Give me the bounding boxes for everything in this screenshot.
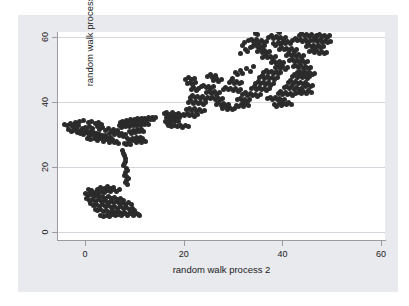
scatter-point (240, 71, 245, 76)
y-axis-title-wrap: random walk process 1 (26, 32, 38, 240)
scatter-point (202, 108, 207, 113)
scatter-point (116, 141, 121, 146)
scatter-point (86, 187, 91, 192)
scatter-point (186, 124, 191, 129)
y-tick-40 (52, 102, 57, 103)
scatter-point (324, 50, 329, 55)
x-tick-label-40: 40 (277, 249, 287, 259)
y-tick-label-20: 20 (40, 160, 50, 174)
scatter-point (273, 54, 278, 59)
scatter-point (285, 65, 290, 70)
scatter-point (238, 51, 243, 56)
scatter-point (248, 45, 253, 50)
scatter-point (219, 77, 224, 82)
scatter-point (248, 69, 253, 74)
gridline-y-20 (57, 167, 385, 168)
scatter-point (277, 32, 282, 35)
scatter-point (310, 83, 315, 88)
gridline-y-0 (57, 232, 385, 233)
scatter-plot-figure: 02040600204060 random walk process 2 ran… (0, 0, 409, 306)
scatter-point (308, 65, 313, 70)
plot-region (57, 32, 385, 240)
x-axis-title: random walk process 2 (57, 264, 386, 275)
y-axis-title: random walk process 1 (84, 0, 95, 142)
scatter-point (192, 76, 197, 81)
scatter-point (245, 49, 250, 54)
x-tick-label-0: 0 (83, 249, 88, 259)
x-tick-40 (282, 241, 283, 246)
scatter-point (143, 139, 148, 144)
scatter-point (289, 102, 294, 107)
y-tick-60 (52, 37, 57, 38)
scatter-point (125, 182, 130, 187)
scatter-point (153, 115, 158, 120)
y-tick-label-60: 60 (40, 30, 50, 44)
scatter-point (141, 129, 146, 134)
y-tick-label-40: 40 (40, 95, 50, 109)
scatter-point (213, 73, 218, 78)
scatter-point (294, 47, 299, 52)
x-tick-label-60: 60 (376, 249, 386, 259)
scatter-point (251, 64, 256, 69)
plot-area (57, 32, 385, 240)
scatter-point (258, 92, 263, 97)
x-tick-0 (85, 241, 86, 246)
scatter-point (246, 103, 251, 108)
y-tick-20 (52, 167, 57, 168)
x-axis-line (57, 240, 386, 241)
x-tick-20 (184, 241, 185, 246)
scatter-point (267, 49, 272, 54)
scatter-point (111, 185, 116, 190)
scatter-point (146, 122, 151, 127)
scatter-point (312, 71, 317, 76)
scatter-point (275, 75, 280, 80)
x-tick-60 (381, 241, 382, 246)
y-tick-label-0: 0 (40, 225, 50, 239)
y-tick-0 (52, 232, 57, 233)
scatter-point (242, 40, 247, 45)
scatter-point (309, 90, 314, 95)
x-tick-label-20: 20 (179, 249, 189, 259)
gridline-y-60 (57, 37, 385, 38)
scatter-point (239, 80, 244, 85)
y-axis-line (57, 32, 58, 241)
